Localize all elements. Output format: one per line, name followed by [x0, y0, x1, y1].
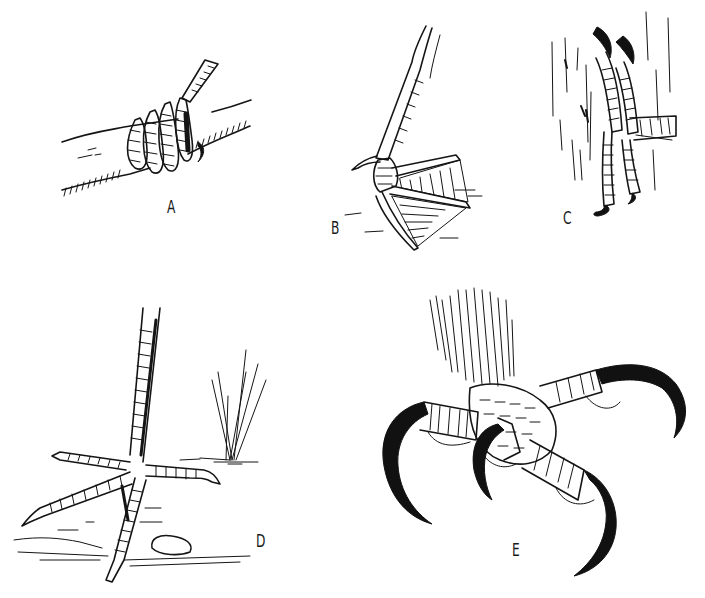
bird-feet-illustration: A B: [0, 0, 705, 598]
panel-e-label: E: [512, 542, 520, 559]
panel-e-raptor-foot: E: [0, 0, 705, 598]
raptor-foot-drawing: [0, 0, 705, 598]
